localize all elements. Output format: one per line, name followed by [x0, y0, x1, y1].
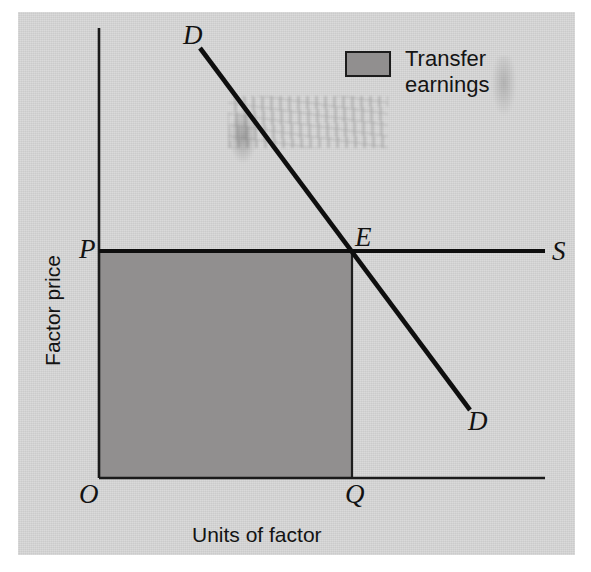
factor-market-diagram: D D S E P O Q Factor price Units of fact…	[0, 0, 591, 572]
y-axis-title: Factor price	[42, 231, 63, 391]
supply-curve-label: S	[552, 238, 566, 265]
demand-curve-label-bottom: D	[468, 408, 488, 435]
demand-curve-label-top: D	[183, 22, 203, 49]
legend-label-transfer-earnings: Transfer earnings	[405, 46, 535, 97]
legend: Transfer earnings	[345, 46, 535, 97]
transfer-earnings-region	[99, 251, 352, 478]
quantity-axis-label: Q	[345, 481, 365, 508]
x-axis-title: Units of factor	[192, 524, 322, 545]
price-axis-label: P	[79, 236, 96, 263]
equilibrium-point-label: E	[355, 224, 372, 251]
legend-swatch-transfer-earnings	[345, 51, 391, 77]
origin-label: O	[79, 481, 99, 508]
